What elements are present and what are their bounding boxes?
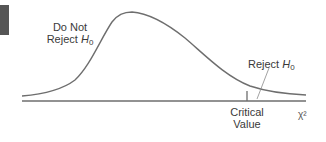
critical-line2: Value (221, 118, 273, 130)
x-axis-label: χ² (298, 109, 307, 121)
do-not-reject-line1: Do Not (42, 21, 98, 33)
reject-word: Reject (47, 33, 81, 45)
reject-word: Reject (248, 58, 282, 70)
critical-value-label: Critical Value (221, 106, 273, 130)
h-subscript: 0 (290, 63, 294, 72)
reject-label: Reject H0 (248, 58, 295, 74)
h-symbol: H (282, 58, 290, 70)
h-symbol: H (81, 33, 89, 45)
do-not-reject-line2: Reject H0 (42, 33, 98, 49)
critical-line1: Critical (221, 106, 273, 118)
do-not-reject-label: Do Not Reject H0 (42, 21, 98, 49)
h-subscript: 0 (89, 38, 93, 47)
